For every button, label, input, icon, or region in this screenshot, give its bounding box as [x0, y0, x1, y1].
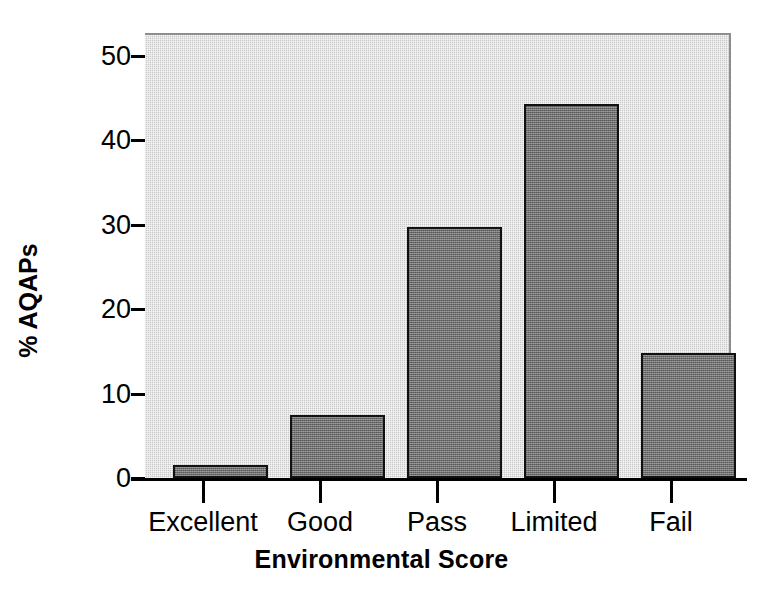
y-axis-title-container: % AQAPs — [8, 180, 48, 420]
bar-pass — [407, 227, 502, 478]
x-tick-mark — [202, 481, 205, 503]
x-axis-line — [131, 478, 747, 481]
y-tick-label: 50 — [75, 43, 131, 70]
x-tick-label-good: Good — [287, 506, 353, 538]
x-tick-label-fail: Fail — [649, 506, 693, 538]
x-tick-mark — [436, 481, 439, 503]
x-tick-label-limited: Limited — [510, 506, 597, 538]
y-tick-label: 10 — [75, 381, 131, 408]
y-tick-label: 0 — [75, 465, 131, 492]
x-axis-title: Environmental Score — [0, 545, 763, 574]
y-axis-title: % AQAPs — [14, 243, 43, 357]
y-tick-mark — [131, 308, 145, 311]
y-tick-label: 40 — [75, 127, 131, 154]
x-tick-label-pass: Pass — [407, 506, 467, 538]
bar-limited — [524, 104, 619, 478]
bar-fail — [641, 353, 736, 478]
bar-chart-figure: % AQAPs 50 40 30 20 10 0 Excellent Good … — [0, 0, 763, 592]
x-tick-label-excellent: Excellent — [148, 506, 258, 538]
y-tick-mark — [131, 224, 145, 227]
y-axis-tick-labels: 50 40 30 20 10 0 — [46, 0, 131, 592]
x-tick-mark — [553, 481, 556, 503]
plot-area — [145, 33, 731, 478]
y-tick-mark — [131, 393, 145, 396]
x-tick-mark — [319, 481, 322, 503]
y-tick-mark — [131, 55, 145, 58]
bar-good — [290, 415, 385, 478]
y-tick-label: 20 — [75, 296, 131, 323]
y-tick-label: 30 — [75, 212, 131, 239]
x-tick-mark — [670, 481, 673, 503]
bar-excellent — [173, 465, 268, 478]
y-tick-mark — [131, 139, 145, 142]
